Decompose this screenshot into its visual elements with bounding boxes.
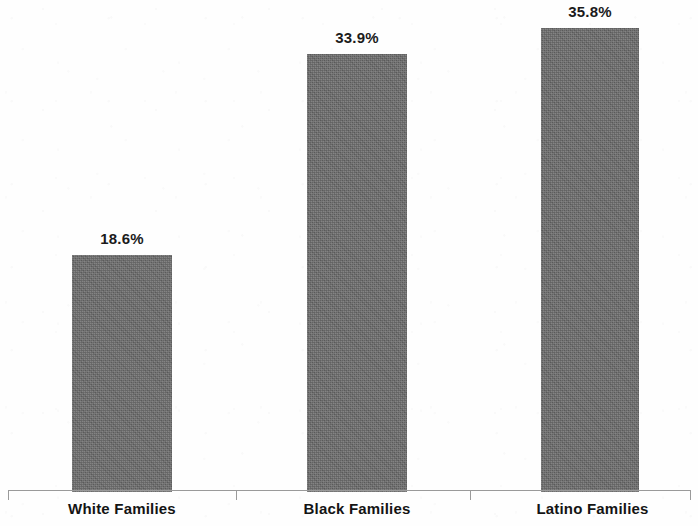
bar-value-label-black-families: 33.9% [307, 29, 407, 46]
bar-white-families [72, 255, 172, 492]
x-axis-tick [470, 491, 471, 500]
x-axis-line [8, 490, 691, 491]
category-label-latino-families: Latino Families [530, 500, 655, 517]
category-label-white-families: White Families [62, 500, 182, 517]
bar-latino-families [541, 28, 639, 492]
bar-chart: 18.6% 33.9% 35.8% White Families Black F… [0, 0, 698, 526]
x-axis-tick [236, 491, 237, 500]
bar-black-families [307, 54, 407, 492]
x-axis-tick [8, 491, 9, 500]
plot-area: 18.6% 33.9% 35.8% [0, 0, 698, 492]
x-axis-tick [690, 491, 691, 500]
bar-value-label-white-families: 18.6% [72, 230, 172, 247]
bar-value-label-latino-families: 35.8% [540, 3, 640, 20]
x-axis-category-labels: White Families Black Families Latino Fam… [0, 500, 698, 526]
category-label-black-families: Black Families [297, 500, 417, 517]
